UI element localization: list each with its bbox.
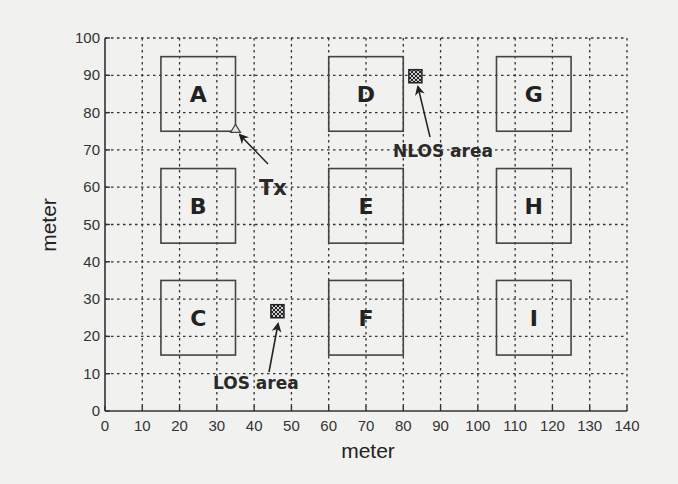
x-tick-label: 40 bbox=[246, 417, 263, 434]
y-tick-labels: 0102030405060708090100 bbox=[75, 29, 100, 419]
building-h: H bbox=[497, 169, 572, 244]
x-tick-label: 0 bbox=[101, 417, 109, 434]
y-tick-label: 40 bbox=[83, 253, 100, 270]
building-label: F bbox=[358, 306, 373, 331]
x-tick-label: 20 bbox=[171, 417, 188, 434]
chart-figure: 0102030405060708090100110120130140 01020… bbox=[0, 0, 678, 484]
triangle-icon bbox=[231, 124, 241, 132]
building-label: C bbox=[190, 306, 206, 331]
building-c: C bbox=[161, 280, 236, 355]
plot-canvas: 0102030405060708090100110120130140 01020… bbox=[0, 0, 678, 484]
nlos-label: NLOS area bbox=[393, 141, 493, 161]
building-g: G bbox=[497, 57, 572, 132]
building-label: I bbox=[530, 306, 538, 331]
nlos-area-marker bbox=[409, 70, 422, 83]
x-tick-label: 10 bbox=[134, 417, 151, 434]
building-label: G bbox=[525, 82, 543, 107]
building-b: B bbox=[161, 169, 236, 244]
x-tick-label: 50 bbox=[283, 417, 300, 434]
x-tick-label: 130 bbox=[577, 417, 602, 434]
x-tick-label: 70 bbox=[358, 417, 375, 434]
x-tick-label: 90 bbox=[432, 417, 449, 434]
building-a: A bbox=[161, 57, 236, 132]
x-tick-labels: 0102030405060708090100110120130140 bbox=[101, 417, 640, 434]
building-label: D bbox=[357, 82, 375, 107]
y-tick-label: 70 bbox=[83, 141, 100, 158]
x-tick-label: 120 bbox=[540, 417, 565, 434]
y-tick-label: 100 bbox=[75, 29, 100, 46]
nlos-arrow bbox=[418, 87, 430, 137]
y-tick-label: 20 bbox=[83, 327, 100, 344]
y-tick-label: 80 bbox=[83, 104, 100, 121]
y-tick-label: 10 bbox=[83, 365, 100, 382]
x-tick-label: 110 bbox=[503, 417, 527, 434]
building-label: E bbox=[358, 194, 373, 219]
transmitter bbox=[231, 124, 241, 132]
x-tick-label: 140 bbox=[614, 417, 639, 434]
x-tick-label: 30 bbox=[209, 417, 226, 434]
los-arrow bbox=[269, 324, 278, 372]
y-tick-label: 0 bbox=[92, 402, 100, 419]
y-tick-label: 50 bbox=[83, 216, 100, 233]
x-tick-label: 100 bbox=[465, 417, 490, 434]
building-label: A bbox=[190, 82, 207, 107]
y-tick-label: 60 bbox=[83, 178, 100, 195]
y-tick-label: 30 bbox=[83, 290, 100, 307]
los-area-marker bbox=[271, 305, 284, 318]
x-tick-label: 80 bbox=[395, 417, 412, 434]
building-i: I bbox=[497, 280, 572, 355]
x-tick-label: 60 bbox=[320, 417, 337, 434]
x-axis-label: meter bbox=[341, 439, 395, 462]
y-axis-label: meter bbox=[37, 198, 60, 252]
tx-label: Tx bbox=[259, 176, 287, 200]
annotations: Tx NLOS area LOS area bbox=[213, 87, 493, 393]
y-tick-label: 90 bbox=[83, 66, 100, 83]
buildings: ABCDEFGHI bbox=[161, 57, 571, 355]
building-label: B bbox=[190, 194, 207, 219]
los-label: LOS area bbox=[213, 373, 299, 393]
building-d: D bbox=[329, 57, 404, 132]
building-label: H bbox=[525, 194, 543, 219]
